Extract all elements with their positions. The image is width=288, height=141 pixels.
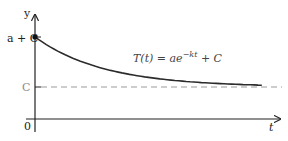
y-tick-label-c: C xyxy=(22,81,30,94)
y-axis-label: y xyxy=(23,7,31,20)
initial-point xyxy=(32,34,37,39)
curve-label-suffix: + C xyxy=(197,52,222,65)
x-axis-label: t xyxy=(269,121,274,134)
curve-label-prefix: T(t) = ae xyxy=(133,52,183,65)
curve-label: T(t) = ae−kt + C xyxy=(133,50,223,65)
origin-label: 0 xyxy=(24,120,31,133)
curve-label-exponent: −kt xyxy=(183,50,199,59)
chart: y t 0 a + C C T(t) = ae−kt + C xyxy=(0,0,288,141)
